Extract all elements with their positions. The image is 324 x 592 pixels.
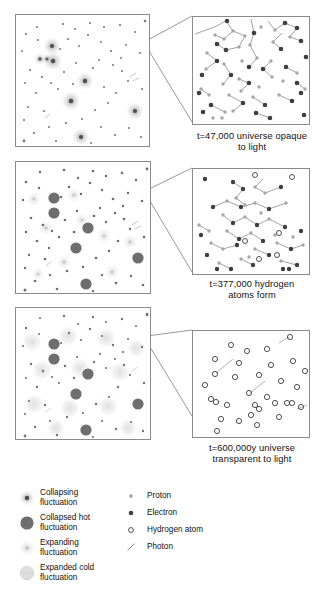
electron-icon: [122, 506, 147, 520]
legend-item-photon: Photon: [122, 538, 312, 555]
stage-1-caption-line-2: to light: [186, 142, 318, 153]
photon-icon: [122, 540, 147, 554]
inset-3-contents: [193, 331, 309, 437]
legend-label-electron: Electron: [147, 508, 177, 518]
legend: Collapsing fluctuation Collapsed hot flu…: [14, 487, 314, 587]
inset-1-contents: [193, 17, 309, 124]
hydrogen-atom-icon: [122, 523, 147, 537]
stage-2-caption-line-2: atoms form: [186, 290, 318, 301]
collapsing-fluctuation-icon: [14, 487, 40, 509]
legend-particles-column: Proton Electron Hydrogen atom Photon: [122, 487, 312, 555]
legend-item-expanded-cold-fluctuation: Expanded cold fluctuation: [14, 562, 124, 587]
cosmology-figure: t=47,000 universe opaque to light: [0, 0, 324, 592]
stage-1-caption-line-1: t=47,000 universe opaque: [186, 131, 318, 142]
magnified-inset-2: [192, 168, 310, 275]
legend-fluctuations-column: Collapsing fluctuation Collapsed hot flu…: [14, 487, 124, 587]
legend-label-collapsing-fluctuation: Collapsing fluctuation: [40, 487, 78, 507]
magnified-inset-1: [192, 16, 310, 125]
magnified-inset-3: [192, 330, 310, 438]
legend-label-photon: Photon: [147, 542, 173, 552]
legend-item-collapsed-hot-fluctuation: Collapsed hot fluctuation: [14, 512, 124, 537]
stage-3-caption-line-1: t=600,000y universe: [186, 443, 318, 454]
inset-2-contents: [193, 169, 309, 274]
stage-3-caption: t=600,000y universe transparent to light: [186, 443, 318, 466]
panel-2-contents: [16, 162, 150, 293]
proton-icon: [122, 489, 147, 503]
legend-item-expanding-fluctuation: Expanding fluctuation: [14, 537, 124, 562]
universe-panel-2: [15, 161, 151, 294]
stage-3-caption-line-2: transparent to light: [186, 454, 318, 465]
legend-label-collapsed-hot-fluctuation: Collapsed hot fluctuation: [40, 512, 90, 532]
stage-2-caption: t=377,000 hydrogen atoms form: [186, 279, 318, 302]
panel-1-contents: [16, 15, 149, 146]
legend-label-expanded-cold-fluctuation: Expanded cold fluctuation: [40, 562, 94, 582]
expanded-cold-fluctuation-icon: [14, 562, 40, 584]
stage-1-caption: t=47,000 universe opaque to light: [186, 131, 318, 154]
expanding-fluctuation-icon: [14, 537, 40, 559]
legend-item-proton: Proton: [122, 487, 312, 504]
universe-panel-1: [15, 14, 150, 147]
legend-label-proton: Proton: [147, 491, 171, 501]
stage-2-caption-line-1: t=377,000 hydrogen: [186, 279, 318, 290]
panel-3-contents: [16, 308, 150, 439]
legend-item-hydrogen-atom: Hydrogen atom: [122, 521, 312, 538]
legend-label-expanding-fluctuation: Expanding fluctuation: [40, 537, 79, 557]
legend-item-electron: Electron: [122, 504, 312, 521]
legend-item-collapsing-fluctuation: Collapsing fluctuation: [14, 487, 124, 512]
collapsed-hot-fluctuation-icon: [14, 512, 40, 534]
universe-panel-3: [15, 307, 151, 440]
legend-label-hydrogen-atom: Hydrogen atom: [147, 525, 203, 535]
